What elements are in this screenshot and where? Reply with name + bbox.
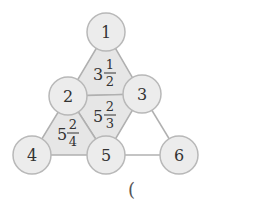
svg-text:1: 1 xyxy=(101,23,111,42)
svg-text:4: 4 xyxy=(69,134,77,149)
svg-text:3: 3 xyxy=(137,85,147,104)
svg-text:1: 1 xyxy=(106,57,114,72)
svg-text:3: 3 xyxy=(106,116,114,131)
node-2: 2 xyxy=(49,77,87,115)
svg-text:5: 5 xyxy=(101,146,111,165)
svg-text:6: 6 xyxy=(174,146,184,165)
svg-text:5: 5 xyxy=(57,125,67,144)
answer-parenthesis: ( xyxy=(128,179,135,200)
svg-text:4: 4 xyxy=(27,146,37,165)
node-4: 4 xyxy=(13,136,51,174)
svg-text:2: 2 xyxy=(63,87,73,106)
svg-text:2: 2 xyxy=(69,117,77,132)
svg-text:3: 3 xyxy=(93,65,103,84)
svg-text:5: 5 xyxy=(93,107,103,126)
node-6: 6 xyxy=(160,136,198,174)
svg-text:2: 2 xyxy=(106,99,114,114)
node-1: 1 xyxy=(87,13,125,51)
node-5: 5 xyxy=(87,136,125,174)
node-3: 3 xyxy=(123,75,161,113)
svg-text:2: 2 xyxy=(106,74,114,89)
